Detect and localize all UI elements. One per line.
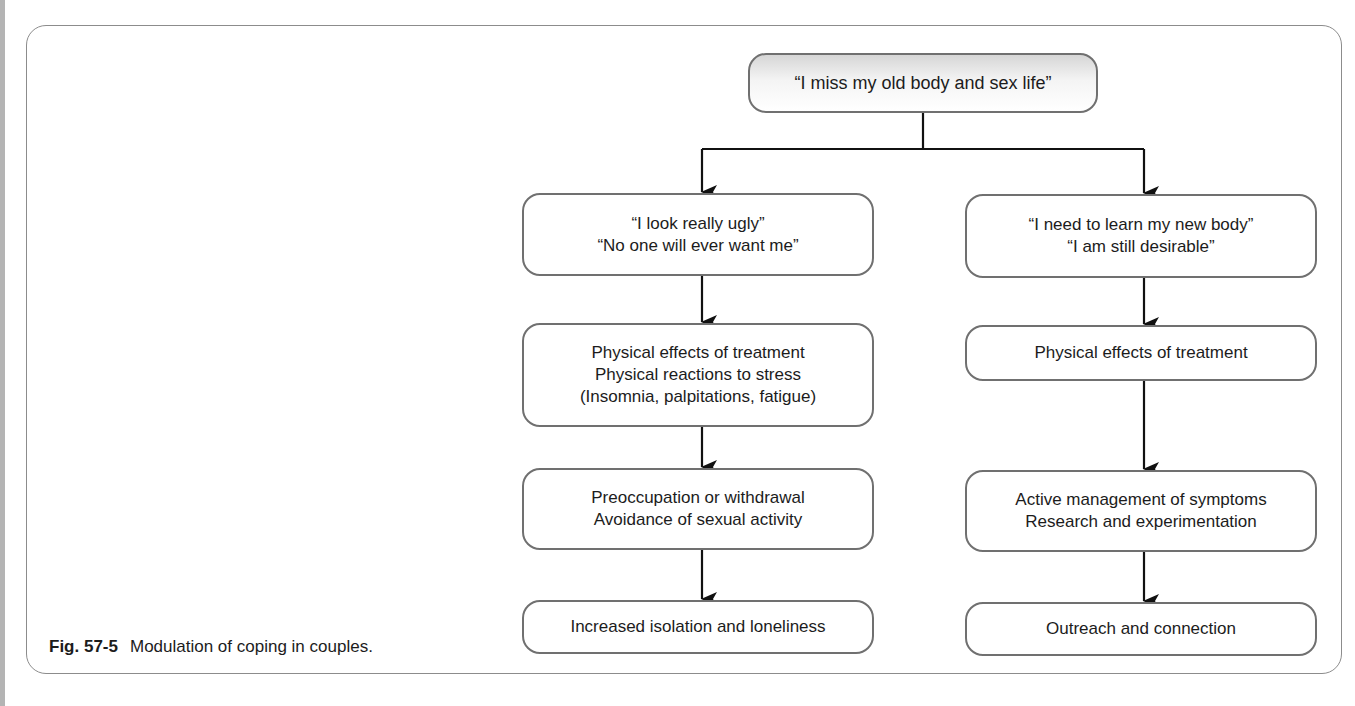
node-line: “I look really ugly”: [631, 213, 764, 235]
node-line: Physical effects of treatment: [1034, 342, 1247, 364]
left-node-isolation: Increased isolation and loneliness: [522, 600, 874, 654]
node-line: Physical effects of treatment: [591, 342, 804, 364]
node-line: Research and experimentation: [1025, 511, 1257, 533]
figure-caption: Fig. 57-5Modulation of coping in couples…: [49, 637, 373, 657]
node-line: (Insomnia, palpitations, fatigue): [580, 386, 816, 408]
left-node-physical-effects: Physical effects of treatment Physical r…: [522, 323, 874, 427]
node-line: “I need to learn my new body”: [1029, 214, 1254, 236]
right-node-positive-thoughts: “I need to learn my new body” “I am stil…: [965, 194, 1317, 278]
left-node-withdrawal: Preoccupation or withdrawal Avoidance of…: [522, 468, 874, 550]
node-line: Outreach and connection: [1046, 618, 1236, 640]
root-node-text: “I miss my old body and sex life”: [794, 72, 1051, 94]
root-node: “I miss my old body and sex life”: [748, 53, 1098, 113]
page-edge-strip: [0, 0, 5, 706]
node-line: Physical reactions to stress: [595, 364, 801, 386]
node-line: “I am still desirable”: [1067, 236, 1214, 258]
node-line: Increased isolation and loneliness: [570, 616, 825, 638]
left-node-negative-thoughts: “I look really ugly” “No one will ever w…: [522, 193, 874, 276]
right-node-physical-effects: Physical effects of treatment: [965, 325, 1317, 381]
figure-caption-text: Modulation of coping in couples.: [130, 637, 373, 656]
figure-label: Fig. 57-5: [49, 637, 118, 656]
node-line: “No one will ever want me”: [597, 235, 798, 257]
right-node-active-management: Active management of symptoms Research a…: [965, 470, 1317, 552]
right-node-outreach: Outreach and connection: [965, 602, 1317, 656]
node-line: Active management of symptoms: [1015, 489, 1266, 511]
node-line: Avoidance of sexual activity: [594, 509, 803, 531]
node-line: Preoccupation or withdrawal: [591, 487, 805, 509]
